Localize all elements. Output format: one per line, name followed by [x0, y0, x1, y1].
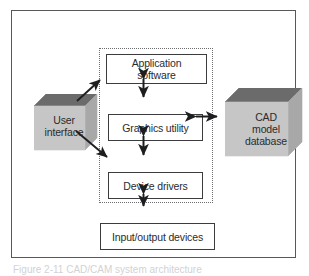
cad-database-label-line3: database [245, 135, 287, 147]
user-interface-label-line2: interface [45, 126, 84, 138]
application-software-label-line1: Application [132, 57, 182, 69]
box-application-software[interactable]: Application software [106, 54, 207, 84]
user-interface-label: User interface [36, 114, 92, 138]
figure-caption: Figure 2-11 CAD/CAM system architecture [13, 264, 303, 275]
user-interface-label-line1: User [53, 114, 75, 126]
box-device-drivers[interactable]: Device drivers [108, 172, 203, 199]
device-drivers-label: Device drivers [123, 180, 187, 192]
figure-frame: Application software Graphics utility De… [11, 10, 296, 258]
input-output-devices-label: Input/output devices [112, 231, 203, 243]
cad-model-database-label: CAD model database [235, 111, 297, 147]
box-input-output-devices[interactable]: Input/output devices [100, 223, 215, 250]
graphics-utility-label: Graphics utility [122, 122, 188, 134]
application-software-label-line2: software [132, 69, 182, 81]
cad-database-label-line2: model [252, 123, 280, 135]
cad-database-label-line1: CAD [255, 111, 277, 123]
box-graphics-utility[interactable]: Graphics utility [108, 114, 203, 141]
